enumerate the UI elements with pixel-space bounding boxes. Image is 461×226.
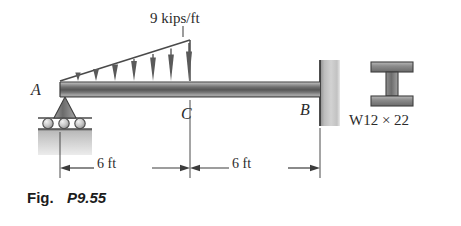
point-label-a: A <box>31 82 41 98</box>
load-arrow <box>131 59 137 81</box>
distributed-load-label: 9 kips/ft <box>150 11 200 26</box>
load-arrow <box>112 65 118 82</box>
figure-caption-prefix: Fig. <box>27 190 54 205</box>
dimension-left-span <box>60 165 190 171</box>
point-label-c: C <box>181 106 192 122</box>
load-arrow <box>93 69 99 81</box>
roller-support-a <box>38 97 92 129</box>
load-arrow <box>150 54 156 81</box>
figure-caption-id: P9.55 <box>67 190 106 205</box>
distributed-load-triangle <box>60 40 192 81</box>
fixed-wall-support-b <box>320 60 340 126</box>
load-arrow <box>186 43 192 81</box>
dimension-right-span <box>190 165 320 171</box>
figure-p955: 9 kips/ft A C B 6 ft 6 ft W12 × 22 Fig. … <box>0 0 461 226</box>
beam-member-ab <box>60 82 320 97</box>
cross-section-label: W12 × 22 <box>349 113 409 128</box>
dimension-label-left-span: 6 ft <box>97 157 116 171</box>
support-ground-hatch <box>38 129 92 155</box>
load-arrow <box>168 49 174 82</box>
cross-section-wshape <box>371 62 413 106</box>
dimension-label-right-span: 6 ft <box>232 157 251 171</box>
point-label-b: B <box>300 102 310 118</box>
